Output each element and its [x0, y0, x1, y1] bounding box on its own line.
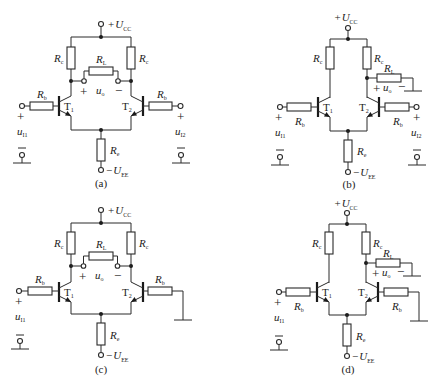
re-resistor	[97, 323, 105, 345]
t2-label: T2	[359, 101, 369, 114]
rc-right-label: Rc	[138, 52, 149, 65]
svg-text:−: −	[115, 83, 122, 98]
rb-left-resistor	[287, 103, 311, 111]
svg-text:+: +	[373, 81, 380, 96]
ui2-label: uI2	[411, 126, 422, 139]
vcc-label: +UCC	[108, 18, 131, 32]
caption-d: (d)	[342, 363, 355, 376]
rc-right-label: Rc	[373, 52, 384, 65]
re-label: Re	[109, 329, 120, 342]
vee-label: −UEE	[106, 164, 129, 178]
svg-text:+: +	[177, 109, 184, 124]
rb-left-label: Rb	[293, 300, 304, 313]
t1-label: T1	[64, 100, 74, 113]
svg-text:+: +	[15, 294, 22, 309]
uo-label: uo	[95, 269, 104, 282]
rb-right-resistor	[384, 288, 408, 296]
uo-label: uo	[96, 84, 105, 97]
rb-left-label: Rb	[294, 115, 305, 128]
rl-label: RL	[95, 238, 107, 251]
rl-label: RL	[383, 62, 395, 75]
re-label: Re	[355, 330, 366, 343]
ui2-label: uI2	[175, 125, 186, 138]
ui1-label: uI1	[17, 125, 28, 138]
rb-right-resistor	[385, 103, 409, 111]
svg-text:−: −	[398, 79, 405, 94]
vcc-terminal	[99, 22, 104, 27]
panel-b: +UCC Rc Rc RL + uo − T1	[271, 11, 426, 191]
svg-text:+: +	[17, 109, 24, 124]
rc-right-resistor	[127, 47, 135, 69]
rc-right-resistor	[127, 232, 135, 254]
uo-label: uo	[382, 266, 391, 279]
rb-right-label: Rb	[154, 273, 165, 286]
rb-right-label: Rb	[156, 88, 167, 101]
panel-d: +UCC Rc Rc RL + uo − T1 Rb + u	[270, 197, 428, 376]
t1-label: T1	[323, 101, 333, 114]
vcc-label: +UCC	[334, 197, 357, 211]
rc-left-resistor	[325, 232, 333, 254]
caption-c: (c)	[95, 363, 108, 376]
rb-right-label: Rb	[391, 300, 402, 313]
rl-label: RL	[382, 247, 394, 260]
rc-right-resistor	[363, 47, 371, 69]
svg-text:+: +	[275, 110, 282, 125]
re-resistor	[344, 140, 352, 162]
panel-a: +UCC Rc Rc RL + uo − T1	[13, 18, 190, 190]
vee-label: −UEE	[106, 349, 129, 363]
rl-resistor	[89, 67, 113, 75]
svg-text:+: +	[274, 295, 281, 310]
svg-text:+: +	[372, 266, 379, 281]
re-resistor	[97, 139, 105, 161]
svg-text:+: +	[79, 269, 86, 284]
rb-left-label: Rb	[34, 273, 45, 286]
vcc-label: +UCC	[108, 204, 131, 218]
caption-b: (b)	[343, 178, 356, 191]
ui1-label: uI1	[275, 126, 286, 139]
rc-left-label: Rc	[312, 52, 323, 65]
rc-left-label: Rc	[53, 237, 64, 250]
rl-label: RL	[95, 53, 107, 66]
t1-label: T1	[64, 286, 74, 299]
rc-left-resistor	[326, 47, 334, 69]
svg-text:−: −	[397, 264, 404, 279]
rb-right-resistor	[149, 102, 172, 110]
t2-label: T2	[122, 286, 132, 299]
rc-right-resistor	[362, 232, 370, 254]
rb-left-resistor	[28, 287, 52, 295]
rb-left-resistor	[30, 102, 53, 110]
svg-text:+: +	[80, 84, 87, 99]
rc-left-label: Rc	[311, 237, 322, 250]
panel-c: +UCC Rc Rc RL + uo − T1	[11, 204, 192, 376]
re-label: Re	[356, 145, 367, 158]
t2-label: T2	[122, 100, 132, 113]
rb-right-label: Rb	[392, 115, 403, 128]
ui1-label: uI1	[15, 310, 26, 323]
differential-amplifier-figure: +UCC Rc Rc RL + uo − T1	[0, 0, 438, 390]
t2-label: T2	[358, 286, 368, 299]
ui1-label: uI1	[274, 311, 285, 324]
rb-right-resistor	[148, 287, 172, 295]
re-label: Re	[109, 144, 120, 157]
rl-resistor	[89, 252, 113, 260]
vee-label: −UEE	[352, 350, 375, 364]
rb-left-label: Rb	[36, 88, 47, 101]
uo-label: uo	[383, 81, 392, 94]
rb-left-resistor	[286, 288, 310, 296]
rc-left-label: Rc	[53, 52, 64, 65]
rc-right-label: Rc	[138, 237, 149, 250]
vee-label: −UEE	[353, 166, 376, 180]
rc-left-resistor	[67, 232, 75, 254]
svg-text:−: −	[114, 268, 121, 283]
rc-left-resistor	[67, 47, 75, 69]
rc-right-label: Rc	[372, 237, 383, 250]
vcc-label: +UCC	[334, 11, 357, 25]
svg-text:+: +	[413, 110, 420, 125]
re-resistor	[343, 324, 351, 346]
caption-a: (a)	[95, 177, 108, 190]
t1-label: T1	[322, 286, 332, 299]
